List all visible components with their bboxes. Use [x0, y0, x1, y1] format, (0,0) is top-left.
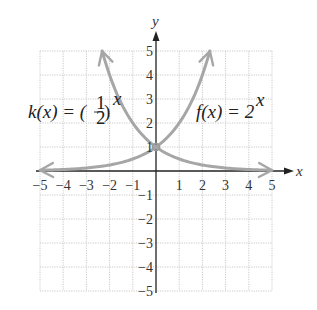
- k-label-close-paren: ): [104, 101, 110, 123]
- y-tick-label: 2: [146, 116, 153, 131]
- f-label-exponent: x: [255, 89, 265, 110]
- y-axis-arrow-icon: [153, 31, 160, 41]
- k-label-main: k(x) = (: [28, 101, 88, 123]
- x-tick-label: 1: [176, 178, 183, 193]
- k-label-exponent: x: [112, 88, 122, 109]
- x-tick-label: 5: [269, 178, 276, 193]
- y-tick-label: 1: [146, 140, 153, 155]
- y-tick-label: −1: [138, 188, 153, 203]
- x-tick-label: −3: [79, 178, 94, 193]
- y-tick-label: −2: [138, 212, 153, 227]
- x-axis-label: x: [295, 163, 303, 179]
- x-tick-label: −4: [56, 178, 71, 193]
- x-tick-label: −5: [33, 178, 48, 193]
- y-tick-label: −5: [138, 284, 153, 299]
- y-tick-label: −3: [138, 236, 153, 251]
- graph-canvas: −5−4−3−2−11234554321−1−2−3−4−5 x y k(x) …: [0, 0, 317, 310]
- axes: [36, 31, 294, 293]
- x-axis-arrow-icon: [284, 168, 294, 175]
- f-label-main: f(x) = 2: [196, 101, 255, 123]
- f-function-label: f(x) = 2 x: [196, 89, 265, 123]
- x-tick-label: −2: [102, 178, 117, 193]
- x-tick-label: 2: [199, 178, 206, 193]
- x-tick-label: 4: [245, 178, 252, 193]
- x-tick-label: 3: [222, 178, 229, 193]
- y-tick-label: 4: [146, 68, 153, 83]
- y-tick-label: 5: [146, 44, 153, 59]
- k-function-label: k(x) = ( 1 2 ) x: [28, 88, 122, 128]
- y-axis-label: y: [150, 13, 159, 29]
- y-tick-label: 3: [146, 92, 153, 107]
- y-tick-label: −4: [138, 260, 153, 275]
